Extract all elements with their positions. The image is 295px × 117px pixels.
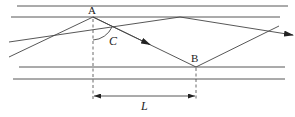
- label-point-a: A: [88, 4, 96, 16]
- ray-direction-arrow: [93, 17, 150, 45]
- label-point-b: B: [191, 52, 198, 64]
- shallow-ray: [9, 17, 180, 42]
- shallow-ray-reflected: [180, 17, 293, 35]
- ray-b-reflected: [196, 26, 279, 67]
- ray-diagram: A B C L: [0, 0, 295, 117]
- incident-ray: [9, 17, 93, 57]
- label-distance-l: L: [140, 99, 148, 113]
- label-angle-c: C: [109, 34, 118, 48]
